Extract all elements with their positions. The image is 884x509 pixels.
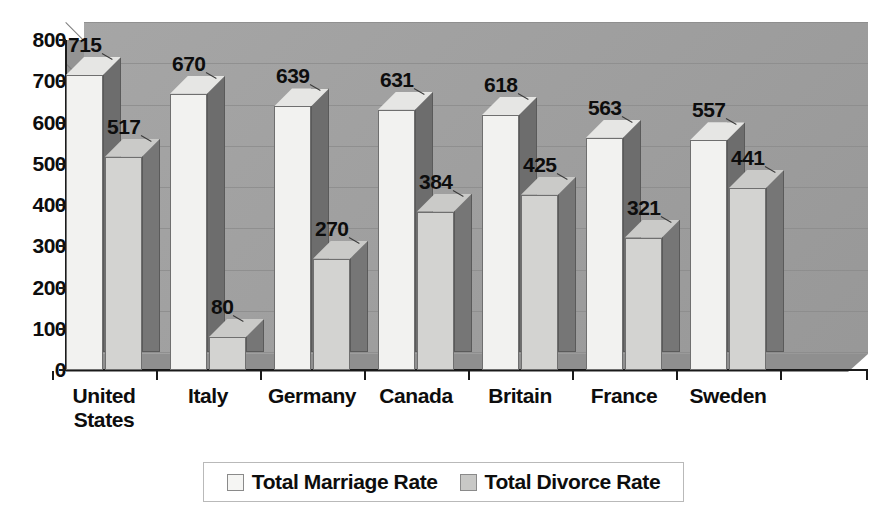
bar-front-face — [274, 106, 311, 370]
y-tick-label: 0 — [10, 358, 66, 382]
bar-total-divorce-rate — [625, 238, 662, 370]
category-label-france: France — [591, 384, 657, 408]
bar-value-label: 321 — [627, 196, 661, 220]
legend-swatch-marriage — [227, 474, 244, 491]
bar-front-face — [105, 157, 142, 370]
y-tick-label: 300 — [10, 234, 66, 258]
bar-total-divorce-rate — [105, 157, 142, 370]
bar-value-label: 557 — [692, 98, 726, 122]
category-label-sweden: Sweden — [690, 384, 767, 408]
bar-total-divorce-rate — [417, 212, 454, 370]
bar-front-face — [729, 188, 766, 370]
bar-value-label: 631 — [380, 68, 414, 92]
chart-legend: Total Marriage Rate Total Divorce Rate — [203, 462, 684, 502]
bar-total-marriage-rate — [170, 94, 207, 370]
bar-front-face — [586, 138, 623, 370]
bar-value-label: 384 — [419, 170, 453, 194]
legend-entry-marriage: Total Marriage Rate — [227, 470, 438, 494]
x-tick-mark — [468, 371, 470, 380]
bar-front-face — [482, 115, 519, 370]
bar-value-label: 715 — [68, 33, 102, 57]
bar-total-marriage-rate — [274, 106, 311, 370]
bar-side-face — [350, 241, 368, 352]
legend-label-divorce: Total Divorce Rate — [485, 470, 661, 494]
y-tick-label: 800 — [10, 28, 66, 52]
bar-front-face — [313, 259, 350, 370]
bar-side-face — [454, 194, 472, 352]
bar-front-face — [625, 238, 662, 370]
bar-value-label: 441 — [731, 146, 765, 170]
bar-value-label: 270 — [315, 217, 349, 241]
legend-entry-divorce: Total Divorce Rate — [460, 470, 661, 494]
bar-total-divorce-rate — [313, 259, 350, 370]
bar-total-divorce-rate — [729, 188, 766, 370]
x-tick-mark — [260, 371, 262, 380]
category-label-britain: Britain — [488, 384, 552, 408]
category-label-united-states: United States — [73, 384, 136, 431]
y-tick-label: 100 — [10, 317, 66, 341]
x-tick-mark — [866, 371, 868, 380]
bar-total-divorce-rate — [209, 337, 246, 370]
y-tick-label: 700 — [10, 69, 66, 93]
bar-front-face — [690, 140, 727, 370]
bar-value-label: 563 — [588, 96, 622, 120]
bar-side-face — [142, 139, 160, 352]
bar-value-label: 80 — [211, 295, 233, 319]
x-tick-mark — [52, 371, 54, 380]
x-tick-mark — [364, 371, 366, 380]
bar-total-marriage-rate — [690, 140, 727, 370]
y-tick-label: 200 — [10, 276, 66, 300]
category-label-canada: Canada — [379, 384, 452, 408]
bar-side-face — [766, 170, 784, 352]
bar-front-face — [170, 94, 207, 370]
legend-swatch-divorce — [460, 474, 477, 491]
bar-total-marriage-rate — [482, 115, 519, 370]
category-label-germany: Germany — [268, 384, 356, 408]
bar-total-marriage-rate — [586, 138, 623, 370]
chart-root: 8007006005004003002001000 United StatesI… — [0, 0, 884, 509]
x-tick-mark — [572, 371, 574, 380]
y-tick-label: 600 — [10, 111, 66, 135]
bar-front-face — [417, 212, 454, 370]
y-axis-labels: 8007006005004003002001000 — [0, 0, 66, 509]
bar-front-face — [66, 75, 103, 370]
bar-side-face — [558, 177, 576, 352]
bar-value-label: 618 — [484, 73, 518, 97]
y-tick-label: 500 — [10, 152, 66, 176]
category-label-italy: Italy — [188, 384, 228, 408]
bar-value-label: 670 — [172, 52, 206, 76]
x-tick-mark — [156, 371, 158, 380]
bar-total-marriage-rate — [378, 110, 415, 370]
bar-value-label: 425 — [523, 153, 557, 177]
y-tick-label: 400 — [10, 193, 66, 217]
bar-total-divorce-rate — [521, 195, 558, 370]
legend-label-marriage: Total Marriage Rate — [252, 470, 438, 494]
x-tick-mark — [780, 371, 782, 380]
gridline — [84, 22, 868, 23]
bar-value-label: 639 — [276, 64, 310, 88]
bar-front-face — [378, 110, 415, 370]
bar-total-marriage-rate — [66, 75, 103, 370]
bar-value-label: 517 — [107, 115, 141, 139]
bar-side-face — [662, 220, 680, 352]
bar-front-face — [209, 337, 246, 370]
x-tick-mark — [676, 371, 678, 380]
bar-front-face — [521, 195, 558, 370]
